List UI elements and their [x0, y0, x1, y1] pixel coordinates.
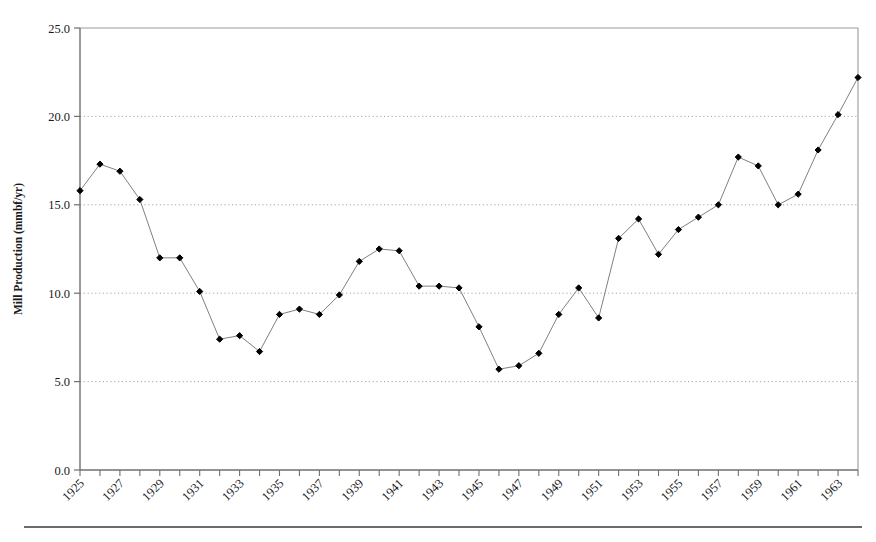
x-tick-label: 1937 — [299, 476, 327, 504]
data-point-marker — [596, 315, 602, 321]
x-tick-label: 1963 — [818, 476, 846, 504]
y-axis-ticks — [74, 28, 80, 470]
x-axis-ticks — [80, 470, 858, 476]
data-point-marker — [137, 196, 143, 202]
y-tick-label: 0.0 — [54, 464, 70, 478]
data-point-marker — [177, 255, 183, 261]
x-tick-label: 1935 — [259, 476, 287, 504]
data-point-marker — [456, 285, 462, 291]
y-tick-label: 20.0 — [48, 110, 70, 124]
data-point-marker — [715, 202, 721, 208]
x-tick-label: 1955 — [658, 476, 686, 504]
data-point-marker — [276, 311, 282, 317]
data-point-marker — [735, 154, 741, 160]
data-point-marker — [496, 366, 502, 372]
y-axis-tick-labels: 0.05.010.015.020.025.0 — [48, 22, 70, 478]
x-tick-label: 1927 — [99, 476, 127, 504]
x-tick-label: 1959 — [738, 476, 766, 504]
data-point-marker — [436, 283, 442, 289]
data-series-line — [80, 78, 858, 370]
y-tick-label: 10.0 — [48, 287, 70, 301]
data-point-markers — [77, 74, 861, 372]
x-tick-label: 1961 — [778, 476, 806, 504]
series-polyline — [80, 78, 858, 370]
data-point-marker — [775, 202, 781, 208]
x-tick-label: 1943 — [419, 476, 447, 504]
gridlines — [80, 116, 858, 381]
data-point-marker — [855, 74, 861, 80]
data-point-marker — [157, 255, 163, 261]
y-axis-title: Mill Production (mmbf/yr) — [12, 183, 25, 315]
x-axis-tick-labels: 1925192719291931193319351937193919411943… — [60, 476, 846, 504]
x-tick-label: 1929 — [139, 476, 167, 504]
data-point-marker — [376, 246, 382, 252]
data-point-marker — [476, 324, 482, 330]
data-point-marker — [536, 350, 542, 356]
x-tick-label: 1941 — [379, 476, 407, 504]
x-tick-label: 1953 — [618, 476, 646, 504]
x-tick-label: 1957 — [698, 476, 726, 504]
data-point-marker — [217, 336, 223, 342]
x-tick-label: 1931 — [179, 476, 207, 504]
x-tick-label: 1939 — [339, 476, 367, 504]
x-tick-label: 1949 — [538, 476, 566, 504]
x-tick-label: 1951 — [578, 476, 606, 504]
figure-root: 0.05.010.015.020.025.0 19251927192919311… — [0, 0, 876, 542]
data-point-marker — [516, 363, 522, 369]
data-point-marker — [296, 306, 302, 312]
data-point-marker — [117, 168, 123, 174]
data-point-marker — [815, 147, 821, 153]
data-point-marker — [356, 258, 362, 264]
data-point-marker — [795, 191, 801, 197]
y-tick-label: 5.0 — [54, 375, 70, 389]
data-point-marker — [695, 214, 701, 220]
line-chart: 0.05.010.015.020.025.0 19251927192919311… — [0, 0, 876, 542]
x-tick-label: 1947 — [498, 476, 526, 504]
y-tick-label: 15.0 — [48, 198, 70, 212]
plot-frame — [80, 28, 858, 470]
data-point-marker — [755, 163, 761, 169]
x-tick-label: 1933 — [219, 476, 247, 504]
x-tick-label: 1945 — [459, 476, 487, 504]
y-axis-title-text: Mill Production (mmbf/yr) — [12, 183, 25, 315]
x-tick-label: 1925 — [60, 476, 88, 504]
data-point-marker — [416, 283, 422, 289]
data-point-marker — [396, 248, 402, 254]
y-tick-label: 25.0 — [48, 22, 70, 36]
